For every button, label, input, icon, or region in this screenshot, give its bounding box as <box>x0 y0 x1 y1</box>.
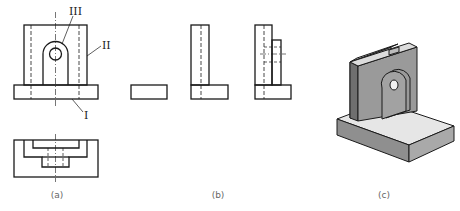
assembled-side-view <box>255 25 291 99</box>
panel-a-front-view <box>14 12 101 112</box>
label-part-I: I <box>84 110 88 121</box>
caption-a: (a) <box>51 191 64 200</box>
panel-a-top-view <box>14 134 98 182</box>
caption-b: (b) <box>212 191 225 200</box>
panel-c-isometric <box>337 43 454 162</box>
base-outline <box>14 85 98 99</box>
caption-c: (c) <box>378 191 390 200</box>
panel-b-components <box>131 25 291 99</box>
base-block-view <box>131 85 167 99</box>
label-part-II: II <box>102 40 111 51</box>
technical-drawing-figure: III II I (a) (b) (c) <box>0 0 460 211</box>
label-part-III: III <box>69 6 82 17</box>
upright-plate-side-view <box>191 25 228 99</box>
